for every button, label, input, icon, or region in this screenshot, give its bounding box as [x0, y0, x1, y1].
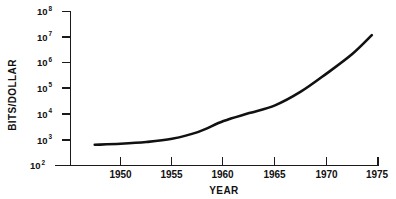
y-tick-label-1e4-mantissa: 10	[37, 109, 48, 120]
y-tick-label-1e3-exponent: 3	[49, 133, 53, 140]
chart-figure: BITS/DOLLAR 10 8 10 7 10 6 10 5 10 4	[0, 0, 396, 199]
data-curve-bits-per-dollar	[95, 35, 372, 145]
y-tick-label-1e4-exponent: 4	[49, 107, 53, 114]
x-tick-label-1960: 1960	[211, 169, 234, 180]
x-tick-label-1950: 1950	[109, 169, 132, 180]
y-tick-label-1e8-mantissa: 10	[37, 6, 48, 17]
y-axis-ticks	[55, 12, 71, 166]
y-tick-label-1e3-mantissa: 10	[37, 135, 48, 146]
y-tick-label-1e6-exponent: 6	[49, 56, 53, 63]
y-tick-label-1e5-mantissa: 10	[37, 83, 48, 94]
x-axis-tick-labels: 1950 1955 1960 1965 1970 1975	[109, 169, 388, 180]
y-axis-tick-labels: 10 8 10 7 10 6 10 5 10 4 10 3 10 2	[30, 5, 53, 172]
x-tick-label-1975: 1975	[366, 169, 389, 180]
y-tick-label-1e5-exponent: 5	[49, 81, 53, 88]
x-tick-label-1965: 1965	[263, 169, 286, 180]
y-tick-label-1e2-exponent: 2	[42, 159, 46, 166]
x-tick-label-1955: 1955	[160, 169, 183, 180]
x-axis-ticks	[121, 157, 379, 166]
y-axis-title: BITS/DOLLAR	[7, 59, 18, 131]
y-tick-label-1e7-mantissa: 10	[37, 32, 48, 43]
x-tick-label-1970: 1970	[315, 169, 338, 180]
y-tick-label-1e2-mantissa: 10	[30, 160, 41, 171]
y-tick-label-1e6-mantissa: 10	[37, 57, 48, 68]
x-axis-title: YEAR	[209, 185, 239, 196]
y-tick-label-1e8-exponent: 8	[49, 5, 53, 12]
y-tick-label-1e7-exponent: 7	[49, 30, 53, 37]
bits-per-dollar-log-chart: BITS/DOLLAR 10 8 10 7 10 6 10 5 10 4	[0, 0, 396, 199]
